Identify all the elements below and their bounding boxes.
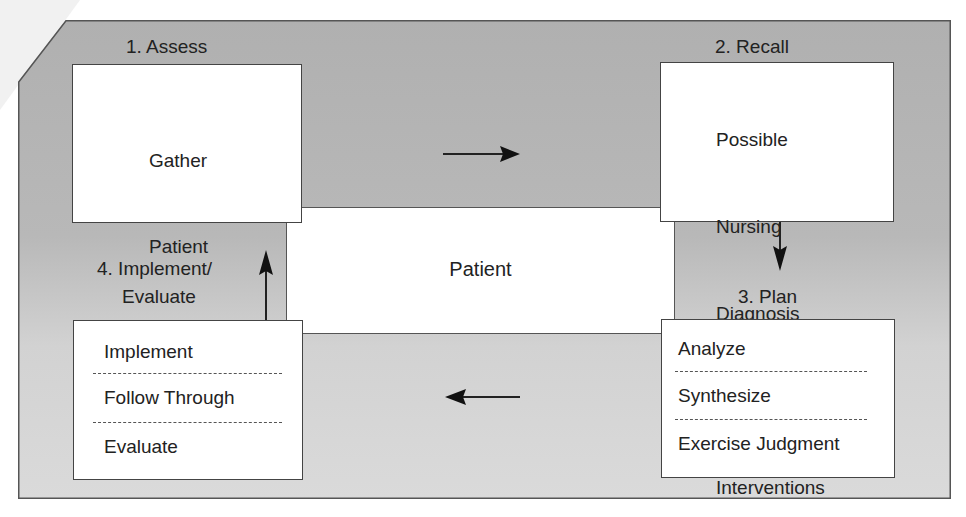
plan-section-analyze: Analyze	[678, 338, 746, 360]
step-assess-box: Gather Patient Data	[72, 64, 302, 223]
step-implement-label-line1: 4. Implement/	[97, 258, 212, 280]
implement-divider-2	[93, 422, 282, 423]
step-assess-label: 1. Assess	[126, 36, 207, 58]
plan-section-exercise-judgment: Exercise Judgment	[678, 433, 840, 455]
recall-line-2: Nursing	[716, 212, 825, 241]
plan-section-synthesize: Synthesize	[678, 385, 771, 407]
implement-section-evaluate: Evaluate	[104, 436, 178, 458]
step-recall-box: Possible Nursing Diagnosis and Intervent…	[660, 62, 894, 222]
step-plan-box: Analyze Synthesize Exercise Judgment	[661, 319, 895, 478]
step-plan-label: 3. Plan	[738, 286, 797, 308]
patient-label: Patient	[287, 258, 674, 281]
implement-section-implement: Implement	[104, 341, 193, 363]
recall-line-1: Possible	[716, 125, 825, 154]
assess-line-2: Patient	[149, 233, 208, 262]
implement-divider-1	[93, 373, 282, 374]
plan-divider-2	[675, 419, 867, 420]
patient-center: Patient	[286, 207, 675, 334]
assess-line-1: Gather	[149, 147, 208, 176]
implement-section-follow-through: Follow Through	[104, 387, 235, 409]
step-recall-label: 2. Recall	[715, 36, 789, 58]
step-implement-label-line2: Evaluate	[122, 286, 196, 308]
step-implement-box: Implement Follow Through Evaluate	[73, 320, 303, 480]
plan-divider-1	[675, 371, 867, 372]
